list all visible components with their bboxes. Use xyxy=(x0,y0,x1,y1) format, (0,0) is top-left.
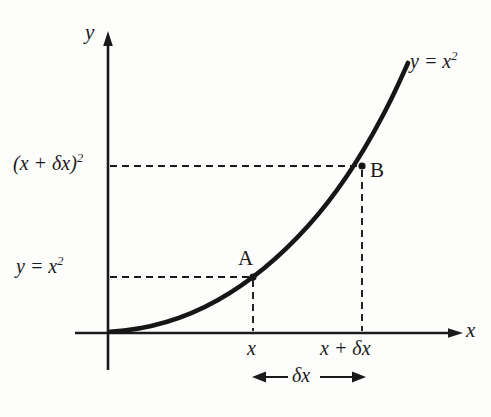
point-marker-a xyxy=(249,273,256,280)
y-tick-lower-exponent: 2 xyxy=(57,254,63,268)
point-marker-b xyxy=(358,162,365,169)
y-tick-label-lower: y = x2 xyxy=(16,255,63,276)
point-label-b: B xyxy=(370,160,384,181)
parabola-curve xyxy=(110,63,408,332)
y-tick-lower-text: y = x xyxy=(16,255,57,277)
calculus-diagram: y x y = x2 (x + δx)2 y = x2 x x + δx A B… xyxy=(0,0,491,417)
y-axis-label: y xyxy=(85,22,94,43)
x-tick-label-a: x xyxy=(247,338,256,358)
delta-x-label: δx xyxy=(292,365,310,385)
x-axis-arrowhead xyxy=(448,328,463,338)
curve-equation-label: y = x2 xyxy=(410,50,457,71)
delta-x-arrowhead-right xyxy=(352,372,366,383)
x-axis-label: x xyxy=(466,320,475,341)
y-tick-label-upper: (x + δx)2 xyxy=(13,152,83,173)
curve-equation-text: y = x xyxy=(410,50,451,72)
x-tick-label-b: x + δx xyxy=(320,338,371,358)
curve-equation-exponent: 2 xyxy=(451,49,457,63)
y-tick-upper-text: (x + δx) xyxy=(13,152,77,174)
y-tick-upper-exponent: 2 xyxy=(77,151,83,165)
y-axis-arrowhead xyxy=(103,31,113,46)
delta-x-arrowhead-left xyxy=(252,372,266,383)
point-label-a: A xyxy=(238,248,253,269)
